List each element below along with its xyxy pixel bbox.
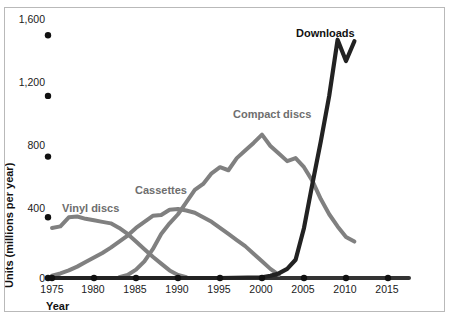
x-tick-label-1980: 1980	[71, 283, 115, 295]
series-line-downloads	[52, 40, 354, 278]
x-tick-label-2010: 2010	[323, 283, 367, 295]
x-tick-label-1995: 1995	[197, 283, 241, 295]
y-axis-title: Units (millions per year)	[4, 163, 15, 288]
series-label-cassettes: Cassettes	[135, 184, 187, 196]
y-axis-tick-markers	[45, 32, 51, 281]
y-tick-label-1600: 1,600	[5, 13, 45, 25]
y-tick-label-1200: 1,200	[5, 76, 45, 88]
series-label-compact-discs: Compact discs	[233, 108, 311, 120]
x-tick-label-1975: 1975	[30, 283, 74, 295]
x-tick-label-2015: 2015	[365, 283, 409, 295]
chart-figure: 1,600 1,200 800 400 0 1975 1980 1985 199…	[0, 0, 450, 319]
x-tick-label-1990: 1990	[155, 283, 199, 295]
line-chart-plot	[5, 8, 445, 312]
x-tick-label-2005: 2005	[281, 283, 325, 295]
chart-frame: 1,600 1,200 800 400 0 1975 1980 1985 199…	[4, 7, 445, 312]
x-tick-label-2000: 2000	[239, 283, 283, 295]
x-tick-label-1985: 1985	[113, 283, 157, 295]
series-label-vinyl: Vinyl discs	[62, 202, 119, 214]
y-tick-label-800: 800	[5, 139, 45, 151]
x-axis-title: Year	[46, 300, 69, 312]
series-label-downloads: Downloads	[296, 27, 355, 39]
